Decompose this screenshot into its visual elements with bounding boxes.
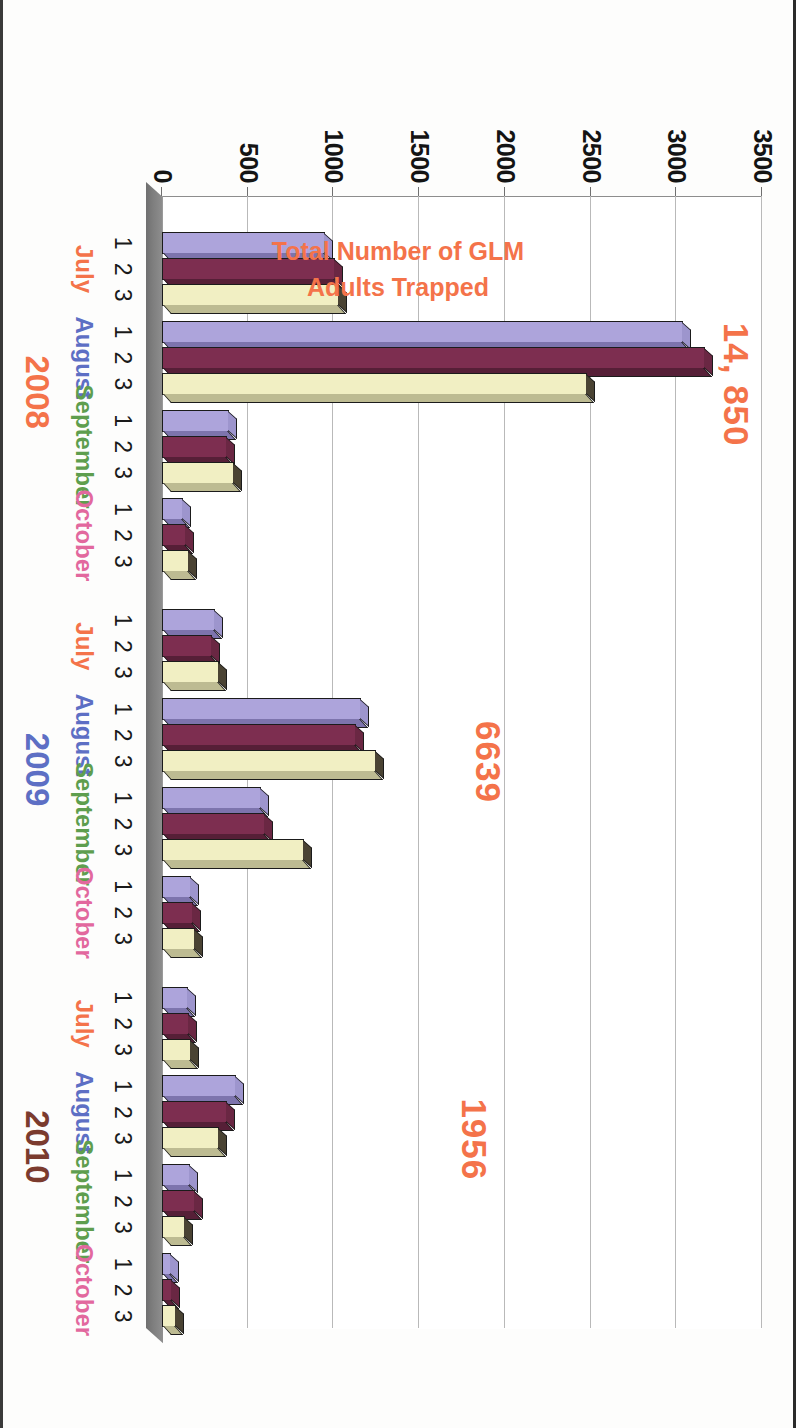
season-total-2010: 1956 xyxy=(454,1098,494,1180)
y-axis-title-line-2: Adults Trapped xyxy=(163,269,633,305)
month-label-july: July xyxy=(70,1000,98,1048)
bar-group xyxy=(162,1253,762,1327)
y-axis-tick-label: 500 xyxy=(233,143,262,183)
trap-number-label: 1 xyxy=(109,1258,136,1271)
trap-number-label: 3 xyxy=(109,666,136,679)
trap-number-label: 3 xyxy=(109,932,136,945)
year-label-2010: 2010 xyxy=(18,1110,56,1183)
bar xyxy=(162,462,234,484)
y-axis-tick xyxy=(590,187,591,196)
trap-number-label: 1 xyxy=(109,237,136,250)
bar-group xyxy=(162,321,762,395)
bar xyxy=(162,839,304,861)
trap-number-label: 2 xyxy=(109,640,136,653)
y-axis-tick-label: 3500 xyxy=(748,129,777,183)
bar xyxy=(162,1101,227,1123)
trap-number-label: 2 xyxy=(109,729,136,742)
y-axis-tick xyxy=(418,187,419,196)
trap-number-label: 3 xyxy=(109,555,136,568)
season-total-2008: 14, 850 xyxy=(716,323,756,447)
bar xyxy=(162,876,191,898)
trap-number-label: 2 xyxy=(109,906,136,919)
bar-group xyxy=(162,609,762,683)
bar xyxy=(162,1075,236,1097)
trap-number-label: 1 xyxy=(109,1080,136,1093)
bar-side-face xyxy=(163,394,594,403)
bar-group xyxy=(162,987,762,1061)
bar xyxy=(162,436,227,458)
trap-number-label: 2 xyxy=(109,818,136,831)
bar xyxy=(162,698,361,720)
trap-number-label: 2 xyxy=(109,1284,136,1297)
bar xyxy=(162,1279,172,1301)
bar xyxy=(162,750,376,772)
trap-number-label: 3 xyxy=(109,289,136,302)
trap-number-label: 2 xyxy=(109,1195,136,1208)
bar-group xyxy=(162,410,762,484)
month-label-july: July xyxy=(70,245,98,293)
bar xyxy=(162,724,356,746)
trap-number-label: 1 xyxy=(109,792,136,805)
trap-number-label: 3 xyxy=(109,466,136,479)
trap-number-label: 1 xyxy=(109,325,136,338)
bar xyxy=(162,813,265,835)
bar xyxy=(162,1164,190,1186)
trap-number-label: 1 xyxy=(109,880,136,893)
year-label-2008: 2008 xyxy=(18,355,56,428)
month-label-july: July xyxy=(70,622,98,670)
trap-number-label: 1 xyxy=(109,414,136,427)
month-label-october: October xyxy=(70,1244,98,1336)
month-label-october: October xyxy=(70,489,98,581)
bar xyxy=(162,1190,195,1212)
bar xyxy=(162,928,195,950)
bar xyxy=(162,609,215,631)
bar xyxy=(162,635,212,657)
trap-number-label: 3 xyxy=(109,1043,136,1056)
y-axis-tick xyxy=(332,187,333,196)
trap-number-label: 3 xyxy=(109,1310,136,1323)
bar xyxy=(162,347,705,369)
bar-side-face xyxy=(163,305,346,314)
trap-number-label: 3 xyxy=(109,377,136,390)
bar xyxy=(162,550,189,572)
y-axis-tick xyxy=(247,187,248,196)
y-axis-tick-label: 2500 xyxy=(576,129,605,183)
bar xyxy=(162,1039,191,1061)
bar-group xyxy=(162,698,762,772)
y-axis-tick xyxy=(761,187,762,196)
bar xyxy=(162,373,587,395)
bar xyxy=(162,1216,185,1238)
trap-number-label: 3 xyxy=(109,1132,136,1145)
trap-number-label: 1 xyxy=(109,503,136,516)
bar xyxy=(162,410,229,432)
y-axis-tick xyxy=(504,187,505,196)
bar xyxy=(162,902,193,924)
axis-base-wall xyxy=(146,182,163,1343)
trap-number-label: 2 xyxy=(109,351,136,364)
bar xyxy=(162,498,183,520)
bar-side-face xyxy=(163,682,226,691)
bar-group xyxy=(162,498,762,572)
bar xyxy=(162,524,186,546)
bar xyxy=(162,1013,189,1035)
trap-number-label: 1 xyxy=(109,703,136,716)
y-axis-title: Total Number of GLM Adults Trapped xyxy=(163,234,633,305)
month-label-october: October xyxy=(70,867,98,959)
trap-number-label: 3 xyxy=(109,755,136,768)
y-axis-tick-label: 0 xyxy=(148,170,177,183)
bar xyxy=(162,787,261,809)
year-label-2009: 2009 xyxy=(18,733,56,806)
trap-number-label: 2 xyxy=(109,263,136,276)
y-axis-tick-label: 3000 xyxy=(662,129,691,183)
bar xyxy=(162,1305,176,1327)
bar-side-face xyxy=(163,1148,226,1157)
season-total-2009: 6639 xyxy=(468,721,508,803)
bar-group xyxy=(162,876,762,950)
trap-number-label: 3 xyxy=(109,1221,136,1234)
bar xyxy=(162,321,683,343)
trap-number-label: 2 xyxy=(109,440,136,453)
y-axis-tick-label: 2000 xyxy=(490,129,519,183)
trap-number-label: 2 xyxy=(109,529,136,542)
y-axis-tick-label: 1000 xyxy=(319,129,348,183)
bar-side-face xyxy=(163,860,311,869)
